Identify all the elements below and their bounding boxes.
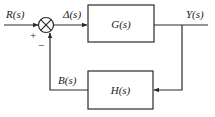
- output-label: Y(s): [186, 8, 204, 21]
- plus-sign: +: [30, 29, 36, 41]
- block-diagram: R(s) + − Δ(s) G(s) Y(s) H(s) B(s): [0, 0, 215, 117]
- summing-junction: [39, 18, 54, 33]
- feedback-takeoff-line: [154, 25, 182, 90]
- forward-block-label: G(s): [111, 18, 131, 31]
- input-label: R(s): [5, 8, 25, 21]
- error-label: Δ(s): [62, 8, 81, 21]
- feedback-block-label: H(s): [110, 84, 131, 97]
- minus-sign: −: [38, 39, 44, 51]
- feedback-label: B(s): [58, 74, 77, 87]
